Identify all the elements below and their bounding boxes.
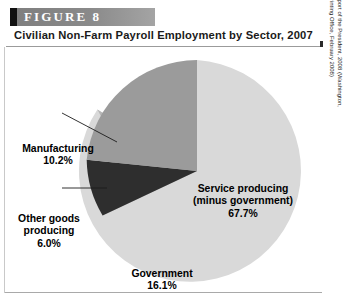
- figure-banner-accent-bar: [10, 8, 17, 26]
- label-manufacturing-name: Manufacturing: [22, 143, 94, 154]
- label-service-value: 67.7%: [176, 208, 310, 220]
- label-manufacturing-value: 10.2%: [10, 155, 106, 167]
- label-other-goods-producing: Other goods producing 6.0%: [3, 213, 95, 250]
- figure-banner: FIGURE 8: [10, 8, 155, 26]
- label-service-name-line1: Service producing: [198, 183, 289, 194]
- label-other-goods-name-line2: producing: [3, 225, 95, 237]
- label-manufacturing: Manufacturing 10.2%: [10, 143, 106, 168]
- pie-chart-svg: [0, 48, 347, 294]
- label-service-producing: Service producing (minus government) 67.…: [176, 183, 310, 220]
- title-divider: [6, 46, 322, 47]
- label-other-goods-value: 6.0%: [3, 238, 95, 250]
- label-service-name-line2: (minus government): [176, 195, 310, 207]
- source-note: SOURCE: Economic Report of the President…: [328, 0, 343, 110]
- label-government: Government 16.1%: [114, 268, 210, 293]
- label-government-value: 16.1%: [114, 280, 210, 292]
- figure-title: Civilian Non-Farm Payroll Employment by …: [14, 29, 313, 41]
- figure-page: FIGURE 8 Civilian Non-Farm Payroll Emplo…: [0, 0, 347, 303]
- bottom-divider: [4, 292, 322, 293]
- label-government-name: Government: [131, 268, 192, 279]
- figure-number-label: FIGURE 8: [24, 10, 101, 24]
- left-divider: [4, 47, 5, 293]
- label-other-goods-name-line1: Other goods: [18, 213, 80, 224]
- title-divider-end-cap: [320, 41, 323, 47]
- pie-chart: Manufacturing 10.2% Other goods producin…: [0, 48, 347, 294]
